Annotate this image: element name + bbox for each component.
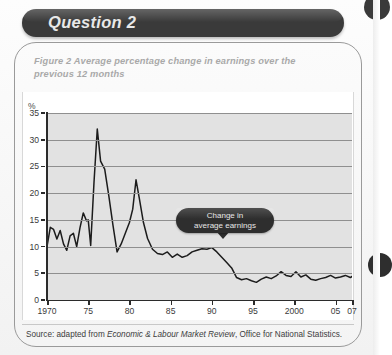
x-axis-line xyxy=(46,300,353,302)
x-axis-label: 07 xyxy=(337,306,367,316)
y-axis-tick xyxy=(41,299,45,301)
x-axis-tick xyxy=(294,300,296,305)
y-axis-label: 5 xyxy=(13,268,39,278)
decorative-dot-middle-right xyxy=(368,253,392,277)
y-axis-tick xyxy=(41,139,45,141)
x-axis-tick xyxy=(171,300,173,305)
x-axis-tick xyxy=(129,300,131,305)
x-axis-label: 80 xyxy=(114,306,144,316)
y-axis-label: 35 xyxy=(13,108,39,118)
callout-bubble: Change in average earnings xyxy=(176,208,274,233)
gridline xyxy=(47,247,352,248)
figure-caption: Figure 2 Average percentage change in ea… xyxy=(34,55,334,80)
x-axis-tick xyxy=(88,300,90,305)
earnings-line-series xyxy=(47,113,352,300)
gridline xyxy=(47,166,352,167)
gridline xyxy=(47,273,352,274)
y-axis-tick xyxy=(41,246,45,248)
source-publication: Economic & Labour Market Review xyxy=(107,330,235,339)
x-axis-label: 95 xyxy=(238,306,268,316)
x-axis-tick xyxy=(253,300,255,305)
y-axis-label: 20 xyxy=(13,188,39,198)
callout-label: Change in average earnings xyxy=(176,211,274,230)
y-axis-label: 10 xyxy=(13,242,39,252)
x-axis-label: 85 xyxy=(156,306,186,316)
y-axis-label: 25 xyxy=(13,161,39,171)
y-axis-tick xyxy=(41,112,45,114)
x-axis-label: 1970 xyxy=(32,306,62,316)
y-axis-label: 0 xyxy=(13,295,39,305)
gridline xyxy=(47,113,352,114)
series-path xyxy=(47,129,352,282)
x-axis-label: 75 xyxy=(73,306,103,316)
y-axis-tick xyxy=(41,192,45,194)
y-axis-tick xyxy=(41,166,45,168)
y-axis-label: 15 xyxy=(13,215,39,225)
source-note: Source: adapted from Economic & Labour M… xyxy=(26,330,352,339)
x-axis-tick xyxy=(47,300,49,305)
source-suffix: , Office for National Statistics. xyxy=(235,330,342,339)
chart-plot-area xyxy=(47,113,352,300)
source-prefix: Source: adapted from xyxy=(26,330,107,339)
source-divider xyxy=(22,324,354,325)
gridline xyxy=(47,193,352,194)
gridline xyxy=(47,140,352,141)
question-header-bar: Question 2 xyxy=(22,9,344,37)
x-axis-tick xyxy=(352,300,354,305)
y-axis-tick xyxy=(41,272,45,274)
callout-line-1: Change in xyxy=(207,211,243,220)
x-axis-label: 90 xyxy=(197,306,227,316)
x-axis-tick xyxy=(212,300,214,305)
y-axis-label: 30 xyxy=(13,135,39,145)
y-axis-line xyxy=(46,112,48,301)
callout-line-2: average earnings xyxy=(194,221,256,230)
page-edge-strip xyxy=(373,0,380,355)
x-axis-label: 2000 xyxy=(279,306,309,316)
x-axis-tick xyxy=(336,300,338,305)
y-axis-tick xyxy=(41,219,45,221)
page-title: Question 2 xyxy=(48,13,136,32)
